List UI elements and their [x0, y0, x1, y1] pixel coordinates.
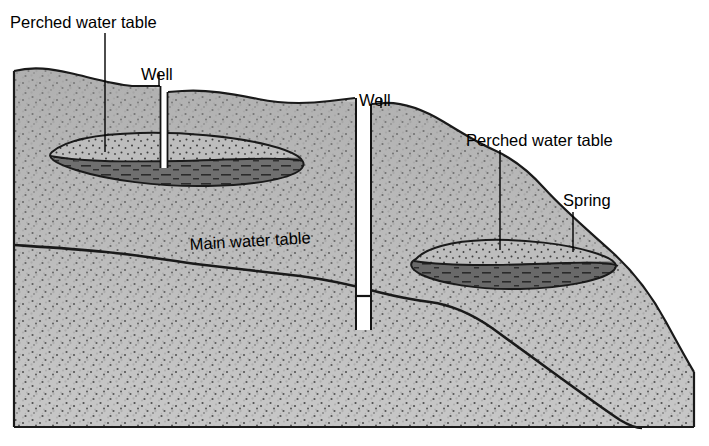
label-well-left: Well	[141, 65, 173, 83]
ground-mass	[0, 0, 709, 446]
label-well-right: Well	[359, 91, 391, 109]
hydrogeology-figure: Perched water table Well Well Perched wa…	[0, 0, 709, 446]
well-left	[160, 86, 168, 168]
label-spring: Spring	[563, 191, 611, 209]
cross-section-diagram: Perched water table Well Well Perched wa…	[0, 0, 709, 446]
well-right	[355, 98, 372, 330]
label-perched-water-table-left: Perched water table	[10, 13, 157, 31]
label-perched-water-table-right: Perched water table	[466, 131, 613, 149]
